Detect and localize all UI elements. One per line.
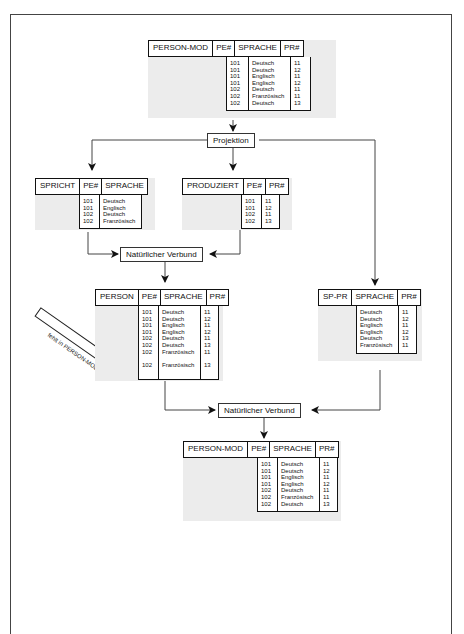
table-name: PERSON-MOD (184, 442, 247, 457)
table-person-mod-bottom: PERSON-MOD PE# SPRACHE PR# 101 101 101 1… (183, 441, 341, 521)
table-body: 101 101 101 101 102 102 102 Deutsch Deut… (257, 458, 338, 512)
col-header: PE# (212, 41, 234, 56)
col-header: PR# (206, 290, 229, 305)
table-header: PERSON-MOD PE# SPRACHE PR# (183, 441, 339, 458)
table-name: PERSON-MOD (149, 41, 212, 56)
col-pr: 11 12 11 12 13 11 (398, 306, 416, 353)
col-header: SPRACHE (160, 290, 206, 305)
table-body: Deutsch Deutsch Englisch Englisch Deutsc… (356, 306, 417, 354)
table-body: 101 101 101 101 102 102 102 102 Deutsch … (138, 306, 219, 380)
col-header: PE# (138, 290, 160, 305)
col-pr: 11 12 11 13 (261, 195, 279, 228)
table-name: SP-PR (319, 290, 351, 305)
col-header: SPRACHE (351, 290, 397, 305)
table-header: SP-PR SPRACHE PR# (318, 289, 421, 306)
col-pe: 101 101 101 101 102 102 102 (227, 57, 248, 110)
operator-natural-join-1: Natürlicher Verbund (120, 247, 203, 262)
table-body: 101 101 101 101 102 102 102 Deutsch Deut… (226, 57, 311, 111)
col-header: SPRACHE (269, 442, 315, 457)
table-produziert: PRODUZIERT PE# PR# 101 101 102 102 11 12… (182, 178, 292, 230)
col-sprache: Deutsch Deutsch Englisch Englisch Deutsc… (277, 458, 319, 511)
col-pe: 101 101 101 101 102 102 102 (258, 458, 277, 511)
table-header: SPRICHT PE# SPRACHE (35, 178, 148, 195)
col-sprache: Deutsch Deutsch Englisch Englisch Deutsc… (357, 306, 398, 353)
col-header: PE# (243, 179, 265, 194)
col-pr: 11 12 11 12 11 13 11 13 (200, 306, 218, 379)
operator-natural-join-2: Natürlicher Verbund (218, 403, 301, 418)
col-header: PR# (265, 179, 288, 194)
table-name: PRODUZIERT (183, 179, 243, 194)
table-header: PERSON PE# SPRACHE PR# (95, 289, 229, 306)
col-sprache: Deutsch Deutsch Englisch Englisch Deutsc… (158, 306, 200, 379)
col-header: PE# (247, 442, 269, 457)
table-body: 101 101 102 102 Deutsch Englisch Deutsch… (79, 195, 142, 229)
operator-projection: Projektion (207, 133, 255, 148)
col-pe: 101 101 101 101 102 102 102 102 (139, 306, 158, 379)
table-header: PRODUZIERT PE# PR# (182, 178, 289, 195)
table-person-mod-top: PERSON-MOD PE# SPRACHE PR# 101 101 101 1… (148, 40, 336, 118)
table-person: PERSON PE# SPRACHE PR# 101 101 101 101 1… (95, 289, 223, 381)
col-header: PR# (397, 290, 420, 305)
col-header: PE# (79, 179, 101, 194)
col-header: SPRACHE (234, 41, 280, 56)
col-header: PR# (315, 442, 338, 457)
table-spricht: SPRICHT PE# SPRACHE 101 101 102 102 Deut… (35, 178, 155, 230)
table-name: SPRICHT (36, 179, 79, 194)
table-header: PERSON-MOD PE# SPRACHE PR# (148, 40, 304, 57)
table-sp-pr: SP-PR SPRACHE PR# Deutsch Deutsch Englis… (318, 289, 422, 361)
col-pr: 11 12 11 12 11 11 13 (319, 458, 337, 511)
col-header: SPRACHE (101, 179, 147, 194)
col-header: PR# (280, 41, 303, 56)
table-body: 101 101 102 102 11 12 11 13 (241, 195, 280, 229)
col-sprache: Deutsch Englisch Deutsch Französisch (99, 195, 141, 228)
col-pr: 11 12 11 12 11 11 13 (290, 57, 310, 110)
col-pe: 101 101 102 102 (80, 195, 99, 228)
col-pe: 101 101 102 102 (242, 195, 261, 228)
table-name: PERSON (96, 290, 138, 305)
col-sprache: Deutsch Deutsch Englisch Englisch Deutsc… (248, 57, 290, 110)
